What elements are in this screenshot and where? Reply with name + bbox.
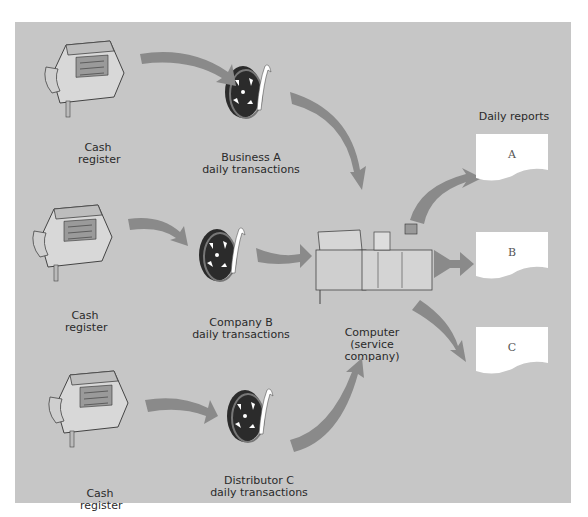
report-document-b: B (476, 232, 548, 282)
report-document-c: C (476, 327, 548, 377)
tape-reel-icon (199, 228, 245, 281)
cash-register-icon (33, 205, 112, 281)
tape-label: Business Adaily transactions (196, 128, 306, 188)
cash-register-icon (45, 41, 124, 117)
cash-register-label: Cashregister (78, 118, 118, 178)
cash-register-label: Cashregister (80, 464, 120, 517)
cash-register-label: Cashregister (65, 286, 105, 346)
report-document-a: A (476, 134, 548, 184)
cash-register-icon (49, 371, 128, 447)
daily-reports-title: Daily reports (474, 111, 554, 123)
tape-reel-icon (227, 389, 273, 442)
tape-label: Distributor Cdaily transactions (204, 451, 314, 511)
computer-icon (316, 224, 432, 304)
computer-label: Computer(servicecompany) (332, 303, 412, 375)
tape-label: Company Bdaily transactions (186, 293, 296, 353)
